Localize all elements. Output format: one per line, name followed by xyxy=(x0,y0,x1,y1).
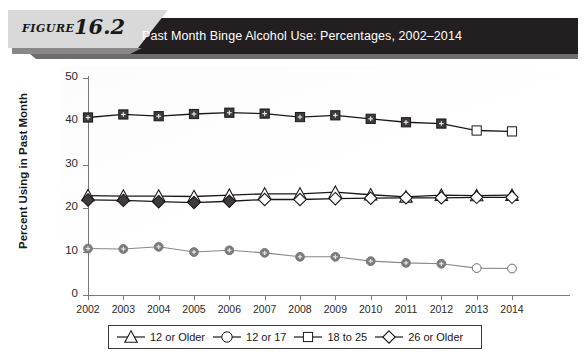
legend-item-circle: 12 or 17 xyxy=(212,329,286,345)
data-point-marker xyxy=(119,110,128,119)
data-point-marker xyxy=(401,118,410,127)
square-icon xyxy=(293,329,323,345)
data-point-marker xyxy=(331,111,340,120)
triangle-icon xyxy=(116,329,146,345)
legend-item-diamond: 26 or Older xyxy=(374,329,463,345)
data-point-marker xyxy=(472,126,481,135)
data-point-marker xyxy=(437,259,446,268)
data-point-marker xyxy=(366,257,375,266)
header-bar-shadow xyxy=(30,54,578,59)
data-point-marker xyxy=(154,242,163,251)
data-point-marker xyxy=(260,249,269,258)
figure-label-word: FIGURE xyxy=(22,22,74,35)
legend-label: 12 or 17 xyxy=(246,331,286,343)
chart-plot-area: Percent Using in Past Month 01020304050 … xyxy=(0,60,588,310)
square-marker xyxy=(304,332,313,341)
data-point-marker xyxy=(225,246,234,255)
data-point-marker xyxy=(84,244,93,253)
legend-label: 12 or Older xyxy=(150,331,205,343)
chart-legend: 12 or Older12 or 1718 to 2526 or Older xyxy=(108,325,482,349)
data-point-marker xyxy=(508,264,517,273)
data-point-marker xyxy=(296,252,305,261)
chart-series-layer xyxy=(0,60,588,310)
data-point-marker xyxy=(190,248,199,257)
data-point-marker xyxy=(366,114,375,123)
circle-marker xyxy=(222,332,232,342)
figure-label-tab-shadow xyxy=(12,48,142,54)
figure-header: FIGURE 16.2 Past Month Binge Alcohol Use… xyxy=(0,10,588,56)
data-point-marker xyxy=(260,109,269,118)
data-point-marker xyxy=(189,109,198,118)
data-point-marker xyxy=(437,119,446,128)
legend-label: 26 or Older xyxy=(408,331,463,343)
circle-icon xyxy=(212,329,242,345)
legend-item-square: 18 to 25 xyxy=(293,329,367,345)
diamond-marker xyxy=(383,331,395,343)
figure-label-number: 16.2 xyxy=(74,14,125,39)
diamond-icon xyxy=(374,329,404,345)
figure-title: Past Month Binge Alcohol Use: Percentage… xyxy=(142,29,462,43)
data-point-marker xyxy=(295,112,304,121)
data-point-marker xyxy=(470,191,482,203)
data-point-marker xyxy=(506,191,518,203)
data-point-marker xyxy=(119,245,128,254)
legend-item-triangle: 12 or Older xyxy=(116,329,205,345)
data-point-marker xyxy=(435,192,447,204)
data-point-marker xyxy=(225,108,234,117)
data-point-marker xyxy=(472,264,481,273)
data-point-marker xyxy=(154,112,163,121)
data-point-marker xyxy=(83,113,92,122)
data-point-marker xyxy=(402,258,411,267)
data-point-marker xyxy=(507,127,516,136)
data-point-marker xyxy=(331,252,340,261)
legend-label: 18 to 25 xyxy=(327,331,367,343)
